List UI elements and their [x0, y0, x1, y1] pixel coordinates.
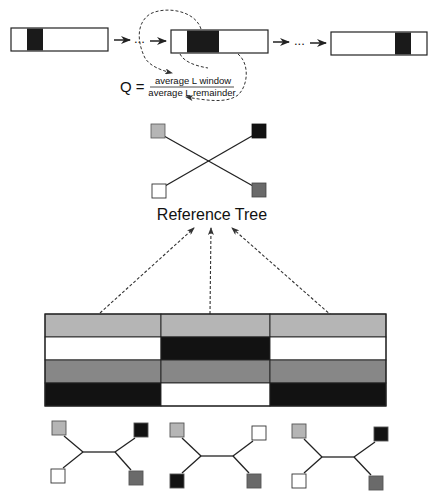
- dashed-arrow-right: [232, 228, 332, 316]
- alignment-to-tree-arrows: [100, 228, 332, 316]
- leaf-light-gray: [170, 423, 184, 437]
- leaf-white: [51, 469, 65, 483]
- partition-trees: [51, 421, 388, 490]
- alignment-cell-black: [161, 337, 270, 360]
- dashed-arrow-center: [210, 228, 211, 314]
- leaf-black: [134, 423, 148, 437]
- dashed-connector: [180, 54, 208, 68]
- leaf-white: [292, 474, 306, 488]
- alignment-cell-black: [270, 383, 386, 406]
- tree-branch: [182, 438, 201, 456]
- diagram-canvas: ... ... Q = average L window average L r…: [0, 0, 434, 494]
- window-highlight: [395, 33, 411, 55]
- leaf-dark-gray: [129, 471, 143, 485]
- tree-branch: [233, 456, 249, 473]
- alignment-cell-light-gray: [161, 314, 270, 337]
- tree-branch: [304, 439, 322, 457]
- tree-branch: [354, 442, 375, 457]
- sequence-box-1: [11, 28, 108, 51]
- formula-lhs: Q =: [120, 78, 145, 95]
- window-highlight: [27, 29, 43, 51]
- alignment-cell-light-gray: [45, 314, 161, 337]
- reference-tree-label: Reference Tree: [157, 206, 267, 223]
- tree-branch: [233, 441, 253, 456]
- partition-tree-1: [51, 421, 148, 485]
- leaf-dark-gray: [247, 474, 261, 488]
- alignment-cell-light-gray: [270, 314, 386, 337]
- leaf-white: [152, 184, 166, 198]
- tree-branch: [304, 457, 322, 473]
- alignment-cell-medium-gray: [270, 360, 386, 383]
- alignment-cell-white: [45, 337, 161, 360]
- reference-tree: Reference Tree: [151, 124, 267, 223]
- alignment-cell-medium-gray: [161, 360, 270, 383]
- tree-branch: [354, 457, 371, 475]
- tree-branch: [115, 438, 135, 452]
- leaf-white: [252, 426, 266, 440]
- leaf-dark-gray: [369, 476, 383, 490]
- sequence-box-3: [331, 32, 427, 55]
- formula-numerator: average L window: [155, 75, 231, 86]
- tree-branch: [115, 452, 131, 470]
- sliding-window-row: ... ...: [11, 28, 427, 55]
- alignment-cell-black: [45, 383, 161, 406]
- partition-tree-3: [292, 424, 388, 490]
- formula-denominator: average L remainder: [148, 87, 235, 98]
- leaf-light-gray: [52, 421, 66, 435]
- tree-branch: [182, 456, 201, 473]
- leaf-black: [374, 427, 388, 441]
- tree-branch: [64, 436, 83, 452]
- leaf-light-gray: [151, 124, 165, 138]
- alignment-cell-medium-gray: [45, 360, 161, 383]
- alignment-cell-white: [161, 383, 270, 406]
- leaf-dark-gray: [252, 183, 266, 197]
- alignment-cell-white: [270, 337, 386, 360]
- leaf-black: [252, 124, 266, 138]
- sequence-box-2: [171, 30, 268, 53]
- leaf-light-gray: [292, 424, 306, 438]
- window-highlight: [187, 31, 219, 53]
- leaf-black: [170, 474, 184, 488]
- q-formula: Q = average L window average L remainder: [120, 75, 236, 98]
- dashed-arrow-left: [100, 228, 194, 313]
- ellipsis: ...: [294, 33, 305, 48]
- tree-branch: [63, 452, 83, 468]
- alignment-grid: [45, 314, 386, 406]
- partition-tree-2: [170, 423, 266, 488]
